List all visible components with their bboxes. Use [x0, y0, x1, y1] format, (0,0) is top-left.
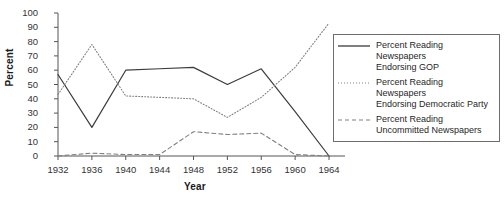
- legend-item-label: Percent Reading Newspapers Endorsing GOP: [376, 40, 495, 73]
- chart-legend: Percent Reading Newspapers Endorsing GOP…: [333, 34, 500, 142]
- legend-line-sample-solid: [338, 40, 370, 51]
- legend-item-label: Percent Reading Uncommitted Newspapers: [376, 114, 482, 136]
- legend-item: Percent Reading Newspapers Endorsing GOP: [338, 40, 495, 73]
- legend-item-label: Percent Reading Newspapers Endorsing Dem…: [376, 77, 495, 110]
- legend-item: Percent Reading Newspapers Endorsing Dem…: [338, 77, 495, 110]
- legend-line-sample-dotted: [338, 77, 370, 88]
- legend-line-sample-dashed: [338, 114, 370, 125]
- legend-item: Percent Reading Uncommitted Newspapers: [338, 114, 495, 136]
- line-chart: Percent Year 0102030405060708090100 1932…: [0, 0, 504, 203]
- x-axis-tick-label: 1964: [309, 165, 349, 175]
